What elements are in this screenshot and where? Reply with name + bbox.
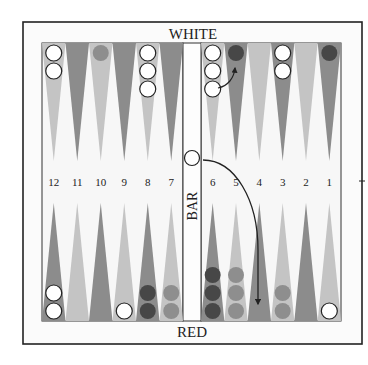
checker-gray-point-5[interactable] (228, 303, 244, 319)
checker-gray-point-7[interactable] (163, 285, 179, 301)
point-number-10: 10 (95, 176, 107, 188)
bar-label: BAR (185, 191, 200, 220)
checker-white-point-17[interactable] (140, 45, 156, 61)
point-number-2: 2 (303, 176, 309, 188)
backgammon-board: WHITE RED 121110987654321 BAR (0, 0, 368, 365)
checker-white-point-9[interactable] (116, 303, 132, 319)
point-number-11: 11 (72, 176, 83, 188)
checker-dark-point-8[interactable] (140, 303, 156, 319)
point-number-7: 7 (169, 176, 175, 188)
point-number-8: 8 (145, 176, 151, 188)
point-number-3: 3 (280, 176, 286, 188)
checker-white-point-12[interactable] (46, 303, 62, 319)
point-number-6: 6 (210, 176, 216, 188)
point-number-12: 12 (48, 176, 59, 188)
bar-checker-white[interactable] (185, 151, 200, 166)
bottom-player-label: RED (177, 324, 207, 340)
checker-white-point-17[interactable] (140, 63, 156, 79)
checker-white-point-17[interactable] (140, 81, 156, 97)
point-number-1: 1 (327, 176, 333, 188)
checker-dark-point-20[interactable] (228, 45, 244, 61)
checker-white-point-19[interactable] (205, 63, 221, 79)
top-player-label: WHITE (169, 26, 217, 42)
checker-white-point-13[interactable] (46, 45, 62, 61)
checker-dark-point-24[interactable] (321, 45, 337, 61)
checker-dark-point-8[interactable] (140, 285, 156, 301)
bar[interactable] (183, 43, 201, 321)
checker-white-point-13[interactable] (46, 63, 62, 79)
checker-white-point-22[interactable] (275, 63, 291, 79)
checker-white-point-1[interactable] (321, 303, 337, 319)
checker-dark-point-6[interactable] (205, 267, 221, 283)
checker-white-point-12[interactable] (46, 285, 62, 301)
right-board (201, 43, 341, 321)
checker-gray-point-5[interactable] (228, 285, 244, 301)
checker-dark-point-6[interactable] (205, 303, 221, 319)
checker-white-point-19[interactable] (205, 45, 221, 61)
point-number-9: 9 (122, 176, 128, 188)
checker-white-point-22[interactable] (275, 45, 291, 61)
checker-gray-point-7[interactable] (163, 303, 179, 319)
checker-dark-point-6[interactable] (205, 285, 221, 301)
checker-gray-point-15[interactable] (93, 45, 109, 61)
checker-gray-point-3[interactable] (275, 285, 291, 301)
left-board (42, 43, 183, 321)
point-number-4: 4 (257, 176, 263, 188)
checker-gray-point-5[interactable] (228, 267, 244, 283)
checker-white-point-19[interactable] (205, 81, 221, 97)
checker-gray-point-3[interactable] (275, 303, 291, 319)
